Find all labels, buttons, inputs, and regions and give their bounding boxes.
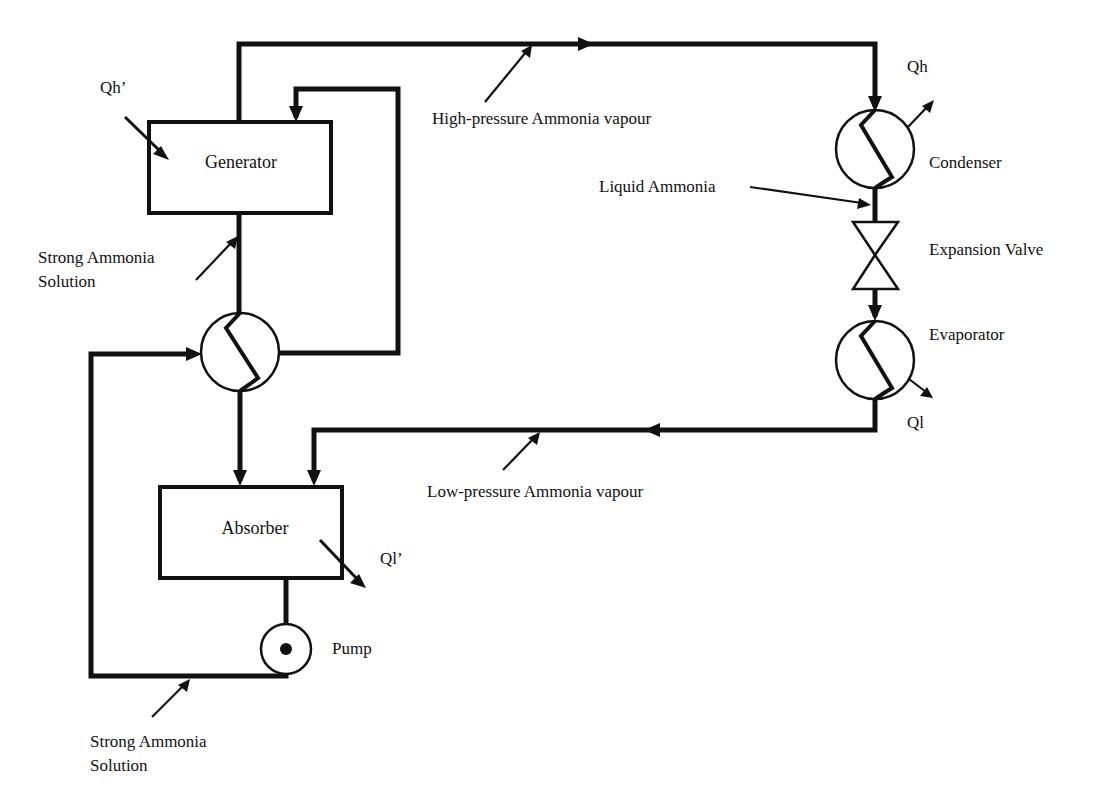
label-high-pressure-vapour: High-pressure Ammonia vapour xyxy=(432,109,651,128)
pump-hub-icon xyxy=(280,643,292,655)
flow-arrow-into-hx xyxy=(186,347,202,361)
label-evaporator: Evaporator xyxy=(929,325,1005,344)
absorber: Absorber xyxy=(160,487,342,578)
leader-high-pressure xyxy=(485,52,526,102)
expansion-valve xyxy=(853,222,898,289)
leader-liquid-ammonia xyxy=(750,187,862,203)
heat-out-arrow-condenser xyxy=(908,106,928,127)
flow-arrow-low-pressure xyxy=(644,423,660,437)
label-qh: Qh xyxy=(907,57,928,76)
generator-label: Generator xyxy=(205,152,277,172)
absorption-refrigeration-diagram: Generator Absorber xyxy=(0,0,1106,794)
heat-out-arrow-evaporator xyxy=(909,379,926,392)
label-ql-prime: Ql’ xyxy=(380,549,403,568)
leader-liquid-ammonia-tip xyxy=(857,198,871,209)
label-strong-solution-lower-2: Solution xyxy=(90,756,148,775)
label-pump: Pump xyxy=(332,639,372,658)
label-liquid-ammonia: Liquid Ammonia xyxy=(599,177,716,196)
label-strong-solution-lower-1: Strong Ammonia xyxy=(90,732,207,751)
leader-low-pressure xyxy=(503,438,534,470)
solution-heat-exchanger xyxy=(201,313,279,391)
label-low-pressure-vapour: Low-pressure Ammonia vapour xyxy=(427,482,644,501)
valve-upper-triangle-icon xyxy=(853,222,898,255)
flow-arrow-into-absorber-right xyxy=(307,470,321,486)
label-expansion-valve: Expansion Valve xyxy=(929,240,1043,259)
absorber-label: Absorber xyxy=(222,518,289,538)
leader-strong-solution-lower xyxy=(152,685,184,717)
label-strong-solution-upper-2: Solution xyxy=(38,272,96,291)
label-qh-prime: Qh’ xyxy=(100,78,126,97)
flow-arrow-into-evaporator xyxy=(868,305,882,321)
pump xyxy=(261,624,311,674)
label-ql: Ql xyxy=(907,413,924,432)
evaporator xyxy=(836,321,914,399)
label-condenser: Condenser xyxy=(929,153,1002,172)
generator: Generator xyxy=(149,122,331,213)
flow-arrow-high-pressure xyxy=(578,37,594,51)
flow-arrow-into-absorber-left xyxy=(233,470,247,486)
label-strong-solution-upper-1: Strong Ammonia xyxy=(38,248,155,267)
valve-lower-triangle-icon xyxy=(853,255,898,289)
condenser xyxy=(836,110,914,188)
pipe-low-pressure-vapour xyxy=(314,399,875,478)
leader-strong-solution-upper xyxy=(196,242,232,280)
flow-arrow-into-generator xyxy=(289,106,303,122)
